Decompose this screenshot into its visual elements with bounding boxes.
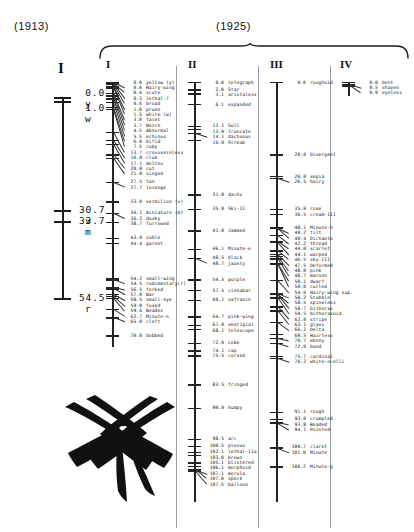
tick-I [106,335,119,336]
locus-name: stripe [310,317,327,322]
leader-line [114,317,125,322]
locus-name: dusky [146,216,160,221]
locus-entry: 0.9eyeless [362,90,402,95]
locus-name: deltex [146,161,163,166]
locus-name: vestigial [228,322,254,327]
locus-position: 64.7 [208,314,224,319]
locus-position: 36.5 [290,212,306,217]
locus-name: Jammed [228,228,245,233]
locus-name: eyeless [382,90,402,95]
locus-name: forked [146,287,163,292]
locus-name: garnet [146,241,163,246]
locus-name: warped [310,252,327,257]
tick-II [188,104,201,105]
locus-name: Hairy-wing sup. [310,290,353,295]
locus-name: crossveinless [146,150,183,155]
locus-entry: 41.0Jammed [208,228,245,233]
locus-name: bithoraxoid [310,311,342,316]
locus-entry: 54.5purple [208,277,245,282]
locus-name: echinus [146,134,166,139]
locus-name: Notch [146,123,160,128]
tick-II [188,408,201,409]
locus-name: bent [382,80,393,85]
locus-entry: 33.0vermilion (v) [126,199,183,204]
locus-name: blistered [228,460,254,465]
tick-II [188,126,201,127]
locus-name: claret [310,444,327,449]
tick-III [270,419,283,420]
locus-position: 48.7 [208,261,224,266]
locus-name: dachs [228,192,242,197]
locus-position: 0.0 [290,80,306,85]
locus-name: bifid [146,139,160,144]
locus-name: sable [146,235,160,240]
locus-entry: 36.5cream-III [290,212,336,217]
leader-line [278,178,289,182]
locus-entry: 3.1aristaless [208,92,257,97]
tick-II [188,290,201,291]
locus-name: cleft [146,319,160,324]
locus-entry: 21.0singed [126,171,163,176]
locus-position: 100.5 [208,443,224,448]
tick-II [188,350,201,351]
map-1913-title: I [58,60,64,77]
tick-III [270,82,283,83]
locus-entry: 20.0Divergent [290,152,336,157]
locus-position: 21.0 [126,171,142,176]
tick-II [188,325,201,326]
locus-position: 16.0 [208,140,224,145]
locus-name: Hairy-wing [146,85,175,90]
locus-name: Abnormal [146,128,169,133]
locus-name: speck [228,476,242,481]
tick-II [188,129,201,130]
locus-entry: 65.0cleft [126,319,160,324]
locus-name: Star [228,87,239,92]
map-1913-entry-symbol: m [85,226,92,237]
locus-entry: 76.2white-ocelli [290,359,344,364]
year-label-1925: (1925) [216,20,251,32]
locus-position: 27.7 [126,185,142,190]
leader-line [278,338,289,341]
locus-entry: 100.5plexus [208,443,245,448]
locus-name: cinnabar [228,288,251,293]
locus-name: Minute-n [146,314,169,319]
tick-I [106,238,119,239]
locus-name: aristaless [228,92,257,97]
locus-entry: 90.0humpy [208,405,242,410]
map-1913-tick [54,97,71,99]
map-1913-entry-symbol: r [85,303,92,314]
locus-entry: 6.1expanded [208,102,251,107]
locus-name: arc [228,436,237,441]
locus-name: shaven [382,85,399,90]
locus-name: white-ocelli [310,359,344,364]
map-1913-tick [54,298,71,300]
locus-entry: 16.0Streak [208,140,245,145]
locus-entry: 107.5balloon [208,482,248,487]
locus-entry: 27.7lozenge [126,185,166,190]
leader-line [196,133,207,137]
locus-entry: 72.0Lobe [208,340,239,345]
locus-entry: 91.1rough [290,409,324,414]
locus-name: Minute [310,450,327,455]
tick-II [188,93,201,94]
map-1913-entry-symbol: w [85,113,92,124]
locus-entry: 31.0dachs [208,192,242,197]
locus-name: cap [228,348,237,353]
locus-name: safranin [228,297,251,302]
leader-line [278,343,289,347]
tick-III [270,466,283,467]
column-divider-2 [258,66,259,528]
locus-position: 54.5 [208,277,224,282]
locus-entry: 48.7jaunty [208,261,245,266]
column-divider-3 [330,66,331,528]
locus-name: morula [228,471,245,476]
locus-name: plexus [228,443,245,448]
locus-position: 83.5 [208,382,224,387]
tick-II [188,329,201,330]
locus-name: vermilion (v) [146,199,183,204]
locus-entry: 83.5fringed [208,382,248,387]
column-title-IV: IV [340,58,352,70]
locus-entry: 94.1Pointed [290,427,330,432]
locus-name: balloon [228,482,248,487]
tick-II [188,439,201,440]
